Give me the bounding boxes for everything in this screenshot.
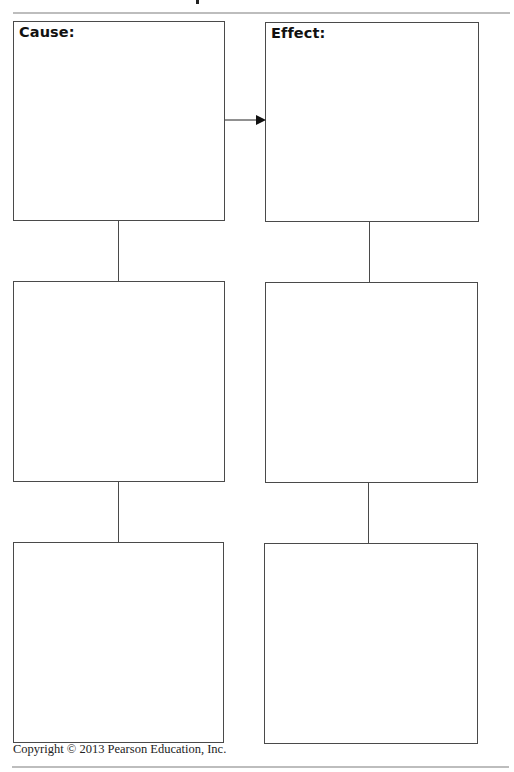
cause-label: Cause:: [19, 24, 75, 40]
copyright-notice: Copyright © 2013 Pearson Education, Inc.: [13, 742, 226, 757]
effect-connector-1: [369, 222, 370, 283]
bottom-rule: [12, 766, 509, 768]
cause-connector-1: [118, 221, 119, 282]
cause-box-1[interactable]: Cause:: [13, 21, 225, 221]
effect-label: Effect:: [271, 25, 325, 41]
cause-box-2[interactable]: [13, 281, 225, 482]
cropped-title-descender: [196, 0, 199, 4]
effect-box-1[interactable]: Effect:: [265, 22, 479, 222]
effect-connector-2: [368, 483, 369, 544]
effect-box-2[interactable]: [265, 282, 478, 483]
arrow-right-icon: [224, 113, 268, 127]
cause-box-3[interactable]: [13, 542, 224, 743]
cause-connector-2: [118, 482, 119, 543]
top-rule: [13, 12, 510, 14]
effect-box-3[interactable]: [264, 543, 478, 744]
